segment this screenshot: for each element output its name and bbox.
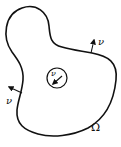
- nu-label-hole: ν: [51, 70, 56, 78]
- inner-hole-boundary: [47, 68, 67, 88]
- normal-arrow-top-right: [91, 40, 94, 53]
- nu-label-left: ν: [6, 96, 12, 106]
- normal-arrow-left: [9, 87, 22, 93]
- nu-label-top-right: ν: [98, 37, 104, 47]
- omega-label: Ω: [91, 122, 100, 133]
- domain-diagram: [0, 0, 121, 147]
- outer-boundary: [6, 7, 116, 136]
